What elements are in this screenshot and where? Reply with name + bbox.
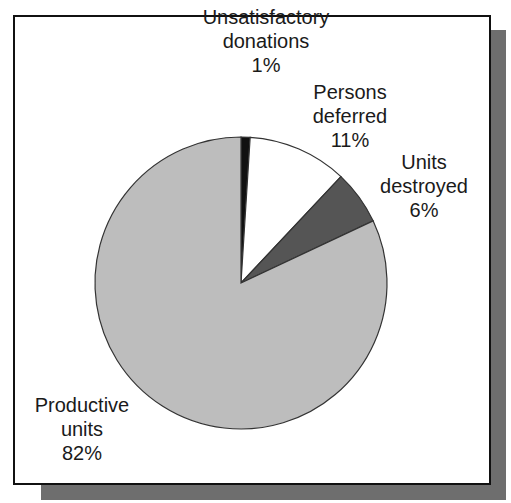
label-pct: 6%: [374, 198, 474, 222]
label-units-destroyed: Units destroyed 6%: [374, 150, 474, 222]
label-line: Unsatisfactory: [196, 5, 336, 29]
label-unsatisfactory-donations: Unsatisfactory donations 1%: [196, 5, 336, 77]
pie-slices: [95, 137, 387, 429]
label-pct: 1%: [196, 53, 336, 77]
label-line: donations: [196, 29, 336, 53]
label-line: Productive: [22, 393, 142, 417]
label-productive-units: Productive units 82%: [22, 393, 142, 465]
label-line: destroyed: [374, 174, 474, 198]
label-pct: 11%: [300, 128, 400, 152]
label-pct: 82%: [22, 441, 142, 465]
label-persons-deferred: Persons deferred 11%: [300, 80, 400, 152]
label-line: Units: [374, 150, 474, 174]
label-line: units: [22, 417, 142, 441]
label-line: deferred: [300, 104, 400, 128]
label-line: Persons: [300, 80, 400, 104]
